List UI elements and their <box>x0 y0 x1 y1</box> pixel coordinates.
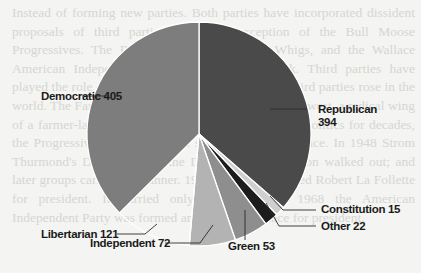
label-democratic: Democratic 405 <box>41 90 122 103</box>
leader-line-libertarian <box>117 224 157 234</box>
pie-slices <box>87 22 311 246</box>
label-republican-name: Republican <box>318 103 377 116</box>
label-green: Green 53 <box>228 240 275 253</box>
label-republican: Republican 394 <box>318 103 377 129</box>
label-libertarian: Libertarian 121 <box>41 228 118 241</box>
label-constitution: Constitution 15 <box>321 203 400 216</box>
pie-slice-democratic <box>87 22 199 213</box>
label-other: Other 22 <box>321 220 365 233</box>
label-republican-value: 394 <box>318 116 377 129</box>
